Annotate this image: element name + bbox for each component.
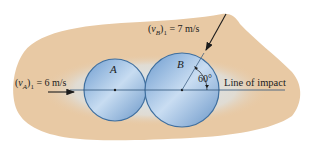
impact-diagram bbox=[0, 0, 313, 151]
velocity-a-value: = 6 m/s bbox=[36, 77, 66, 88]
velocity-b-sub: B bbox=[156, 29, 160, 37]
line-of-impact-label: Line of impact bbox=[224, 78, 286, 89]
disk-a-center bbox=[114, 89, 116, 91]
velocity-a-index: 1 bbox=[30, 83, 34, 91]
velocity-b-value: = 7 m/s bbox=[169, 23, 199, 34]
angle-label: 60° bbox=[198, 74, 212, 84]
disk-a-label: A bbox=[110, 64, 117, 75]
velocity-a-label: (vA)1 = 6 m/s bbox=[15, 78, 67, 91]
velocity-a-sub: A bbox=[23, 83, 27, 91]
velocity-b-index: 1 bbox=[163, 29, 167, 37]
velocity-b-label: (vB)1 = 7 m/s bbox=[148, 24, 200, 37]
disk-b-label: B bbox=[177, 59, 184, 70]
